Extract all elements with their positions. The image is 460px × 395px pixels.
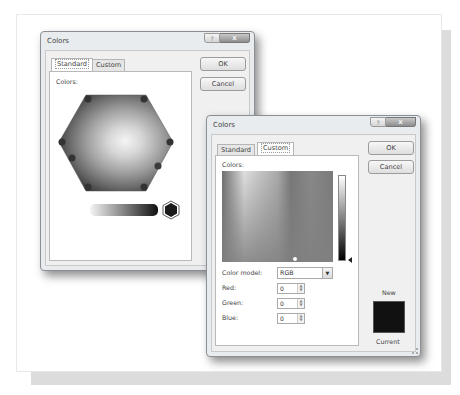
cancel-button[interactable]: Cancel <box>200 77 246 91</box>
tab-standard[interactable]: Standard <box>51 58 93 71</box>
luminance-slider[interactable] <box>338 175 346 261</box>
standard-colors-panel: Colors: <box>49 71 192 261</box>
luminance-pointer-icon[interactable] <box>348 257 352 263</box>
custom-color-spectrum[interactable] <box>222 171 333 262</box>
close-button[interactable]: x <box>386 117 416 127</box>
green-input[interactable]: 0 ▲▼ <box>277 298 305 309</box>
dialog-title: Colors <box>47 37 69 45</box>
chevron-down-icon[interactable]: ▼ <box>322 268 332 278</box>
help-button[interactable]: ? <box>370 117 386 127</box>
color-model-label: Color model: <box>222 269 262 276</box>
resize-grip[interactable] <box>412 348 418 354</box>
ok-button[interactable]: OK <box>200 57 246 71</box>
grayscale-swatches[interactable] <box>90 203 160 217</box>
help-button[interactable]: ? <box>204 33 220 43</box>
color-hexagon-palette[interactable] <box>56 90 176 200</box>
cancel-button[interactable]: Cancel <box>368 160 414 174</box>
green-label: Green: <box>222 299 243 306</box>
red-label: Red: <box>222 284 236 291</box>
help-icon: ? <box>210 35 213 42</box>
tab-custom[interactable]: Custom <box>257 142 294 155</box>
help-icon: ? <box>376 119 379 126</box>
close-button[interactable]: x <box>220 33 250 43</box>
close-icon: x <box>398 118 403 126</box>
colors-label: Colors: <box>56 78 78 85</box>
new-current-color-swatch <box>373 301 405 333</box>
spinner-arrows-icon[interactable]: ▲▼ <box>297 299 304 308</box>
tab-custom[interactable]: Custom <box>92 59 125 71</box>
spinner-arrows-icon[interactable]: ▲▼ <box>297 284 304 293</box>
color-model-select[interactable]: RGB ▼ <box>277 267 333 279</box>
dialog-title: Colors <box>213 121 235 129</box>
current-label: Current <box>376 338 400 345</box>
new-label: New <box>382 289 396 296</box>
close-icon: x <box>232 34 237 42</box>
spectrum-crosshair[interactable] <box>293 257 297 261</box>
spinner-arrows-icon[interactable]: ▲▼ <box>297 314 304 323</box>
ok-button[interactable]: OK <box>368 141 414 155</box>
red-input[interactable]: 0 ▲▼ <box>277 283 305 294</box>
blue-input[interactable]: 0 ▲▼ <box>277 313 305 324</box>
blue-label: Blue: <box>222 314 238 321</box>
colors-label: Colors: <box>222 161 244 168</box>
selected-color-hexagon[interactable] <box>162 200 180 220</box>
